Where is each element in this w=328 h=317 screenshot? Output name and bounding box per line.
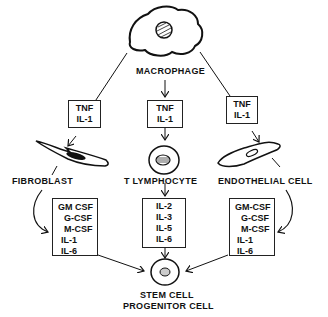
box-line: TNF bbox=[76, 103, 94, 114]
endothelial-products-box: GM-CSF G-CSF M-CSF IL-1 IL-6 bbox=[229, 198, 275, 256]
box-line: IL-6 bbox=[235, 246, 274, 257]
t-lymphocyte-cell-icon bbox=[149, 146, 179, 174]
box-line: GM-CSF bbox=[235, 202, 274, 213]
box-line: M-CSF bbox=[235, 224, 274, 235]
box-line: IL-1 bbox=[76, 114, 92, 125]
box-line: M-CSF bbox=[58, 224, 97, 235]
box-line: TNF bbox=[233, 99, 251, 110]
macrophage-label: MACROPHAGE bbox=[136, 66, 205, 76]
stem-cell-label: STEM CELL bbox=[140, 290, 194, 300]
box-line: IL-6 bbox=[156, 234, 172, 245]
edge-fibroblast-products bbox=[34, 190, 48, 232]
box-line: TNF bbox=[156, 103, 174, 114]
tnf-box-center: TNF IL-1 bbox=[147, 100, 183, 128]
box-line: IL-6 bbox=[58, 246, 97, 257]
box-line: IL-1 bbox=[157, 114, 173, 125]
progenitor-cell-label: PROGENITOR CELL bbox=[123, 301, 214, 311]
diagram-canvas bbox=[0, 0, 328, 317]
tnf-box-left: TNF IL-1 bbox=[68, 100, 101, 128]
box-line: GM CSF bbox=[58, 202, 97, 213]
endothelial-pointer bbox=[272, 158, 280, 167]
box-line: G-CSF bbox=[58, 213, 97, 224]
fibroblast-pointer bbox=[52, 166, 57, 175]
endothelial-label: ENDOTHELIAL CELL bbox=[218, 176, 313, 186]
t-lymphocyte-label: T LYMPHOCYTE bbox=[124, 176, 197, 186]
tcell-products-box: IL-2 IL-3 IL-5 IL-6 bbox=[142, 198, 186, 248]
edge-endothelial-products bbox=[278, 190, 292, 232]
edge-tnf-fibroblast bbox=[68, 136, 76, 146]
box-line: IL-3 bbox=[156, 212, 172, 223]
macrophage-cell-icon bbox=[130, 7, 203, 56]
box-line: IL-2 bbox=[156, 201, 172, 212]
endothelial-cell-icon bbox=[218, 142, 280, 166]
box-line: IL-1 bbox=[234, 110, 250, 121]
box-line: IL-1 bbox=[235, 235, 274, 246]
box-line: G-CSF bbox=[235, 213, 274, 224]
fibroblast-label: FIBROBLAST bbox=[12, 176, 73, 186]
box-line: IL-1 bbox=[58, 235, 97, 246]
stem-cell-icon bbox=[151, 259, 179, 285]
edge-tnf-endothelial bbox=[252, 131, 259, 142]
fibroblast-cell-icon bbox=[36, 141, 108, 166]
fibroblast-products-box: GM CSF G-CSF M-CSF IL-1 IL-6 bbox=[52, 198, 98, 256]
box-line: IL-5 bbox=[156, 223, 172, 234]
edge-endothelial-products-stem bbox=[186, 255, 228, 271]
tnf-box-right: TNF IL-1 bbox=[226, 96, 258, 124]
edge-fibroblast-products-stem bbox=[98, 255, 144, 271]
